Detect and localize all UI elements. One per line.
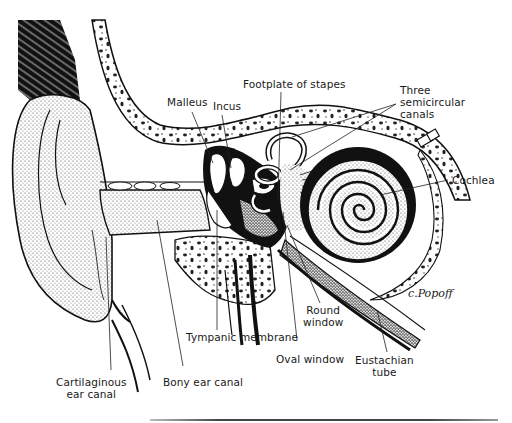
pinna: [13, 95, 112, 322]
label-line: ear canal: [56, 388, 127, 400]
label-three-semicircular-canals: Three semicircular canals: [400, 84, 465, 120]
label-line: window: [303, 316, 343, 328]
label-line: Three: [400, 84, 465, 96]
label-cartilaginous-ear-canal: Cartilaginous ear canal: [56, 376, 127, 400]
bottom-rule: [150, 419, 498, 421]
label-eustachian-tube: Eustachian tube: [355, 354, 414, 378]
artist-signature: c.Popoff: [408, 287, 453, 300]
label-malleus: Malleus: [167, 96, 208, 108]
label-oval-window: Oval window: [276, 353, 344, 365]
label-footplate-of-stapes: Footplate of stapes: [243, 78, 346, 90]
label-line: Eustachian: [355, 354, 414, 366]
label-line: canals: [400, 108, 465, 120]
label-line: tube: [355, 366, 414, 378]
cochlea-structure: [300, 147, 416, 263]
label-line: Round: [303, 304, 343, 316]
ear-canal: [100, 182, 210, 235]
label-tympanic-membrane: Tympanic membrane: [186, 331, 298, 343]
label-line: semicircular: [400, 96, 465, 108]
lower-bone: [175, 236, 275, 345]
label-bony-ear-canal: Bony ear canal: [163, 376, 243, 388]
ear-anatomy-illustration: [0, 0, 512, 423]
label-cochlea: Cochlea: [452, 174, 495, 186]
scalp-hair: [18, 20, 80, 100]
label-line: Cartilaginous: [56, 376, 127, 388]
label-round-window: Round window: [303, 304, 343, 328]
label-incus: Incus: [213, 100, 241, 112]
